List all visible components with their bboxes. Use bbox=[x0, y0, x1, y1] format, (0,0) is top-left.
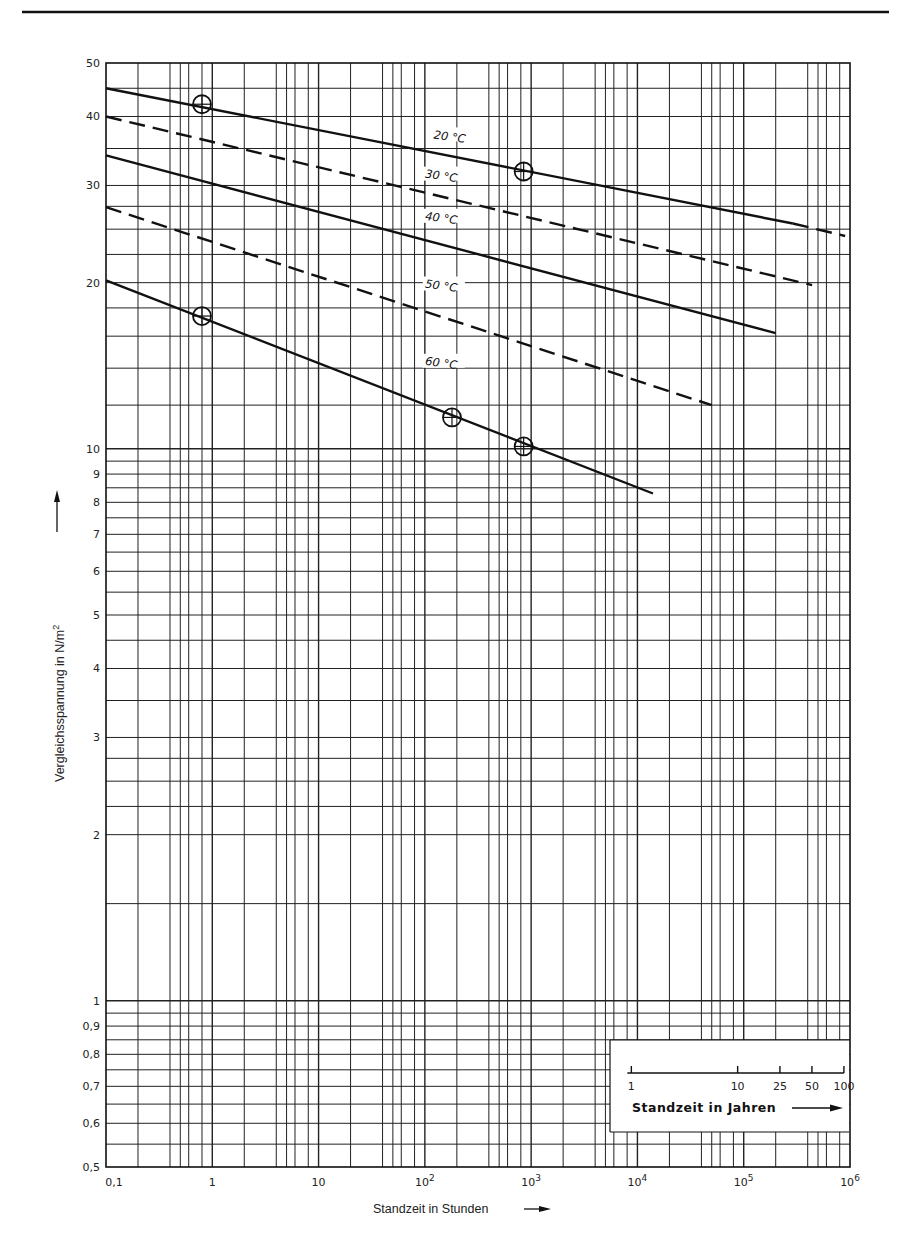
years-tick-label: 100 bbox=[833, 1080, 854, 1093]
x-tick-label: 104 bbox=[628, 1173, 648, 1189]
y-axis-tick-labels: 50403020109876543210,90,80,70,60,5 bbox=[83, 57, 101, 1174]
horizontal-gridlines bbox=[106, 88, 850, 1144]
y-tick-label: 7 bbox=[93, 528, 100, 541]
y-tick-label: 0,5 bbox=[83, 1161, 101, 1174]
x-tick-label: 10 bbox=[312, 1176, 326, 1189]
y-tick-label: 0,9 bbox=[83, 1020, 101, 1033]
y-tick-label: 4 bbox=[93, 662, 100, 675]
temperature-curves bbox=[106, 88, 845, 493]
x-tick-label: 105 bbox=[734, 1173, 754, 1189]
y-axis-title: Vergleichsspannung in N/m2 bbox=[51, 625, 67, 782]
years-tick-label: 1 bbox=[628, 1080, 635, 1093]
y-tick-label: 6 bbox=[93, 565, 100, 578]
years-tick-label: 25 bbox=[773, 1080, 787, 1093]
y-tick-label: 40 bbox=[86, 110, 100, 123]
curve-extrapolation bbox=[793, 223, 845, 235]
y-tick-label: 8 bbox=[93, 496, 100, 509]
x-axis-arrow-icon bbox=[524, 1206, 551, 1212]
y-tick-label: 0,6 bbox=[83, 1117, 101, 1130]
years-tick-label: 50 bbox=[805, 1080, 819, 1093]
y-tick-label: 0,7 bbox=[83, 1080, 101, 1093]
y-axis-arrow-icon bbox=[54, 490, 60, 532]
y-tick-label: 10 bbox=[86, 443, 100, 456]
y-tick-label: 20 bbox=[86, 277, 100, 290]
y-tick-label: 0,8 bbox=[83, 1048, 101, 1061]
y-tick-label: 50 bbox=[86, 57, 100, 70]
creep-rupture-chart: 20 °C30 °C40 °C50 °C60 °C 50403020109876… bbox=[0, 0, 911, 1260]
x-tick-label: 106 bbox=[840, 1173, 860, 1189]
y-axis-title-group: Vergleichsspannung in N/m2 bbox=[51, 625, 67, 782]
x-tick-label: 1 bbox=[209, 1176, 216, 1189]
y-tick-label: 5 bbox=[93, 609, 100, 622]
y-tick-label: 2 bbox=[93, 829, 100, 842]
y-tick-label: 3 bbox=[93, 731, 100, 744]
x-tick-label: 0,1 bbox=[105, 1176, 123, 1189]
y-tick-label: 9 bbox=[93, 468, 100, 481]
y-tick-label: 1 bbox=[93, 995, 100, 1008]
x-tick-label: 103 bbox=[521, 1173, 541, 1189]
x-tick-label: 102 bbox=[415, 1173, 435, 1189]
years-inset: 1102550100 Standzeit in Jahren bbox=[610, 1040, 854, 1132]
x-axis-title: Standzeit in Stunden bbox=[373, 1202, 488, 1216]
x-axis-tick-labels: 0,1110102103104105106 bbox=[105, 1173, 860, 1189]
y-tick-label: 30 bbox=[86, 179, 100, 192]
inset-title: Standzeit in Jahren bbox=[632, 1100, 776, 1115]
years-tick-label: 10 bbox=[731, 1080, 745, 1093]
